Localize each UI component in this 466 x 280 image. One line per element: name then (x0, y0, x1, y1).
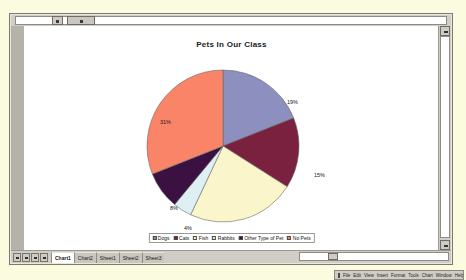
legend-swatch-icon (239, 236, 243, 240)
legend-swatch-icon (212, 236, 216, 240)
next-icon (34, 257, 37, 259)
last-sheet-button[interactable] (40, 253, 48, 262)
menu-item-window[interactable]: Window (436, 273, 452, 278)
left-gutter (11, 26, 24, 250)
legend-swatch-icon (152, 236, 156, 240)
sheet-tab-bar[interactable]: Chart1Chart2Sheet1Sheet2Sheet3 (11, 250, 451, 263)
legend-item-dogs[interactable]: Dogs (152, 235, 169, 241)
first-sheet-button[interactable] (13, 253, 21, 262)
scroll-down-button[interactable] (440, 240, 450, 250)
menu-item-insert[interactable]: Insert (377, 273, 388, 278)
legend-item-fish[interactable]: Fish (193, 235, 208, 241)
menu-item-view[interactable]: View (364, 273, 374, 278)
sheet-tab-chart2[interactable]: Chart2 (74, 252, 96, 263)
legend-swatch-icon (174, 236, 178, 240)
menu-item-format[interactable]: Format (391, 273, 405, 278)
menu-item-tools[interactable]: Tools (408, 273, 419, 278)
scrollbar-thumb-tick-icon (80, 20, 83, 23)
sheet-tab-chart1[interactable]: Chart1 (51, 252, 74, 263)
slice-label-rabbits: 4% (184, 225, 192, 231)
bottom-horizontal-scrollbar[interactable] (299, 252, 449, 261)
legend-swatch-icon (193, 236, 197, 240)
vertical-scrollbar-trough[interactable] (440, 36, 450, 238)
chart-sheet[interactable]: Pets In Our Class 19% 15% 23% 4% 8% 31% … (24, 26, 439, 250)
sheet-tab-sheet1[interactable]: Sheet1 (96, 252, 119, 263)
sheet-tab-sheet3[interactable]: Sheet3 (142, 252, 165, 263)
next-sheet-button[interactable] (31, 253, 39, 262)
spreadsheet-window: Pets In Our Class 19% 15% 23% 4% 8% 31% … (9, 13, 453, 265)
vertical-scrollbar[interactable] (438, 26, 451, 250)
slice-label-cats: 15% (314, 172, 325, 178)
pie-chart-svg (143, 66, 303, 226)
previous-icon (25, 257, 28, 259)
legend-label: Other Type of Pet (244, 235, 283, 241)
slice-label-other: 8% (170, 205, 178, 211)
prev-sheet-button[interactable] (22, 253, 30, 262)
legend-label: Dogs (158, 235, 170, 241)
workspace: Pets In Our Class 19% 15% 23% 4% 8% 31% … (11, 26, 451, 250)
menu-item-chart[interactable]: Chart (422, 273, 433, 278)
legend-item-cats[interactable]: Cats (174, 235, 190, 241)
menu-item-file[interactable]: File (343, 273, 350, 278)
last-icon (43, 257, 46, 259)
legend-label: Cats (179, 235, 189, 241)
legend-item-rabbits[interactable]: Rabbits (212, 235, 234, 241)
legend-label: No Pets (293, 235, 311, 241)
legend-label: Rabbits (218, 235, 235, 241)
horizontal-scrollbar-thumb[interactable] (328, 253, 338, 260)
slice-label-no-pets: 31% (160, 119, 171, 125)
mini-menu-toolbar[interactable]: FileEditViewInsertFormatToolsChartWindow… (334, 270, 464, 280)
legend-label: Fish (199, 235, 208, 241)
menu-item-edit[interactable]: Edit (353, 273, 361, 278)
tab-nav-buttons[interactable] (11, 253, 48, 262)
application-icon (338, 273, 340, 278)
pie-chart (143, 66, 303, 226)
chart-plot-area: 19% 15% 23% 4% 8% 31% DogsCatsFishRabbit… (24, 26, 439, 250)
scrollbar-thumb-left[interactable] (52, 16, 63, 25)
scrollbar-thumb-tick-icon (56, 20, 59, 23)
legend-swatch-icon (287, 236, 291, 240)
sheet-tabs[interactable]: Chart1Chart2Sheet1Sheet2Sheet3 (51, 251, 164, 263)
menu-item-help[interactable]: Help (455, 273, 464, 278)
chevron-down-icon (444, 245, 448, 247)
desktop-background: Pets In Our Class 19% 15% 23% 4% 8% 31% … (0, 0, 466, 280)
chevron-up-icon (444, 31, 448, 33)
slice-label-dogs: 19% (287, 99, 298, 105)
legend-item-no-pets[interactable]: No Pets (287, 235, 310, 241)
first-icon (16, 257, 19, 259)
chart-legend[interactable]: DogsCatsFishRabbitsOther Type of PetNo P… (148, 233, 314, 243)
scroll-up-button[interactable] (440, 26, 450, 36)
legend-item-other-type-of-pet[interactable]: Other Type of Pet (239, 235, 284, 241)
scrollbar-thumb-right[interactable] (67, 16, 95, 25)
sheet-tab-sheet2[interactable]: Sheet2 (119, 252, 142, 263)
